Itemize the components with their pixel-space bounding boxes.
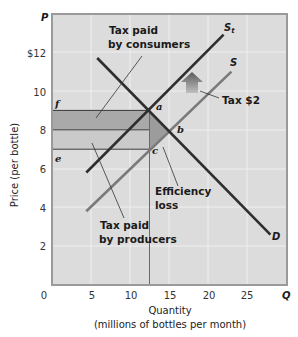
x-tick-25: 25	[241, 290, 254, 301]
x-tick-5: 5	[89, 290, 95, 301]
tax-paid-by-consumers-region	[52, 110, 150, 129]
y-tick-10: 10	[33, 87, 46, 98]
y-tick-12: $12	[27, 48, 46, 59]
point-label-a: a	[156, 101, 162, 112]
x-tick-15: 15	[164, 290, 177, 301]
tax-paid-by-producers-region	[52, 129, 150, 148]
y-axis-symbol: P	[41, 12, 49, 23]
annotation-efficiency-line2: loss	[155, 199, 178, 211]
x-tick-10: 10	[125, 290, 138, 301]
x-axis-subtitle: (millions of bottles per month)	[94, 319, 246, 330]
point-label-b: b	[177, 124, 184, 135]
curve-label-D: D	[272, 231, 280, 242]
annotation-tax-consumers-line2: by consumers	[108, 38, 190, 50]
y-tick-6: 6	[40, 164, 46, 175]
annotation-efficiency-line1: Efficiency	[155, 185, 212, 197]
curve-label-S: S	[230, 57, 237, 68]
x-axis-symbol: Q	[282, 290, 291, 301]
annotation-tax-producers-line1: Tax paid	[100, 219, 149, 231]
x-tick-20: 20	[203, 290, 216, 301]
y-axis-title: Price (per bottle)	[9, 123, 20, 208]
point-label-e: e	[55, 153, 61, 164]
point-label-c: c	[152, 145, 158, 156]
x-tick-labels: 0 5 10 15 20 25	[41, 290, 254, 301]
y-tick-labels: $12 10 8 6 4 2	[27, 48, 46, 252]
tax-incidence-chart: P Q $12 10 8 6 4 2 0 5 10 15 20 25 Price…	[0, 0, 298, 337]
annotation-tax-producers-line2: by producers	[99, 233, 177, 245]
annotation-tax-consumers-line1: Tax paid	[109, 24, 158, 36]
x-axis-title: Quantity	[148, 305, 191, 316]
annotation-tax-amount: Tax $2	[222, 94, 260, 106]
y-tick-2: 2	[40, 241, 46, 252]
y-tick-8: 8	[40, 125, 46, 136]
x-tick-0: 0	[41, 290, 47, 301]
y-tick-4: 4	[40, 203, 46, 214]
